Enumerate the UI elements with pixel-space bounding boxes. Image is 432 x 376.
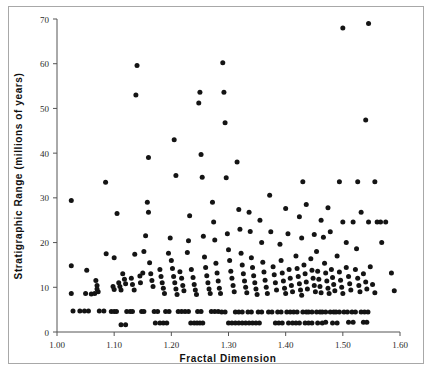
data-point xyxy=(119,322,124,327)
data-point xyxy=(179,276,184,281)
data-point xyxy=(175,292,180,297)
data-point xyxy=(331,282,336,287)
data-point xyxy=(225,231,230,236)
data-point xyxy=(96,289,101,294)
data-point xyxy=(337,309,342,314)
data-point xyxy=(170,266,175,271)
data-point xyxy=(297,214,302,219)
data-point xyxy=(250,265,255,270)
data-point xyxy=(200,321,205,326)
data-point xyxy=(251,273,256,278)
data-point xyxy=(177,269,182,274)
data-point xyxy=(217,286,222,291)
data-point xyxy=(268,229,273,234)
y-axis-ticks: 010203040506070 xyxy=(40,15,57,338)
data-point xyxy=(389,270,394,275)
data-point xyxy=(146,210,151,215)
data-point xyxy=(392,288,397,293)
data-point xyxy=(168,236,173,241)
y-tick-label: 30 xyxy=(40,193,50,203)
data-point xyxy=(146,155,151,160)
data-point xyxy=(261,270,266,275)
data-point xyxy=(77,308,82,313)
data-point xyxy=(159,274,164,279)
data-point xyxy=(311,276,316,281)
data-point xyxy=(141,309,146,314)
data-point xyxy=(335,321,340,326)
data-point xyxy=(200,175,205,180)
data-point xyxy=(299,293,304,298)
data-point xyxy=(207,287,212,292)
data-point xyxy=(304,279,309,284)
data-point xyxy=(289,283,294,288)
data-point xyxy=(103,180,108,185)
data-point xyxy=(123,281,128,286)
data-point xyxy=(205,280,210,285)
data-point xyxy=(69,263,74,268)
data-point xyxy=(330,275,335,280)
data-point xyxy=(112,255,117,260)
data-point xyxy=(351,320,356,325)
x-axis-title: Fractal Dimension xyxy=(180,353,277,364)
data-point xyxy=(253,287,258,292)
data-point xyxy=(235,160,240,165)
data-point xyxy=(247,210,252,215)
data-point xyxy=(295,266,300,271)
data-point xyxy=(274,287,279,292)
y-tick-label: 70 xyxy=(40,15,50,25)
data-point xyxy=(264,285,269,290)
data-point xyxy=(180,283,185,288)
data-point xyxy=(281,279,286,284)
data-point xyxy=(199,309,204,314)
data-point xyxy=(112,287,117,292)
y-tick-label: 60 xyxy=(40,59,50,69)
data-point xyxy=(97,308,102,313)
data-point xyxy=(338,278,343,283)
data-point xyxy=(304,202,309,207)
data-point xyxy=(323,270,328,275)
data-point xyxy=(212,237,217,242)
data-point xyxy=(365,309,370,314)
data-point xyxy=(114,309,119,314)
data-point xyxy=(132,287,137,292)
data-point xyxy=(213,261,218,266)
data-point xyxy=(157,267,162,272)
data-point xyxy=(340,291,345,296)
data-point xyxy=(186,238,191,243)
data-point xyxy=(340,25,345,30)
data-point xyxy=(257,218,262,223)
data-point xyxy=(93,278,98,283)
data-point xyxy=(280,270,285,275)
data-point xyxy=(259,309,264,314)
data-point xyxy=(364,320,369,325)
data-point xyxy=(319,290,324,295)
data-point xyxy=(366,21,371,26)
data-point xyxy=(218,291,223,296)
data-point xyxy=(296,274,301,279)
data-point xyxy=(301,262,306,267)
y-tick-label: 50 xyxy=(40,104,50,114)
data-point xyxy=(322,261,327,266)
data-point xyxy=(147,260,152,265)
data-point xyxy=(273,280,278,285)
data-point xyxy=(344,265,349,270)
data-point xyxy=(149,278,154,283)
data-point xyxy=(345,309,350,314)
data-point xyxy=(162,291,167,296)
x-tick-label: 1.40 xyxy=(278,340,294,350)
data-point xyxy=(368,264,373,269)
data-point xyxy=(71,308,76,313)
data-point xyxy=(288,276,293,281)
data-point xyxy=(208,291,213,296)
data-point xyxy=(171,274,176,279)
data-point xyxy=(172,280,177,285)
data-point xyxy=(194,292,199,297)
scatter-plot: 010203040506070 1.001.101.201.301.401.50… xyxy=(0,0,432,376)
data-point xyxy=(138,280,143,285)
data-point xyxy=(120,271,125,276)
data-point xyxy=(267,193,272,198)
data-point xyxy=(104,251,109,256)
data-point xyxy=(169,258,174,263)
data-point xyxy=(378,220,383,225)
data-point xyxy=(363,118,368,123)
